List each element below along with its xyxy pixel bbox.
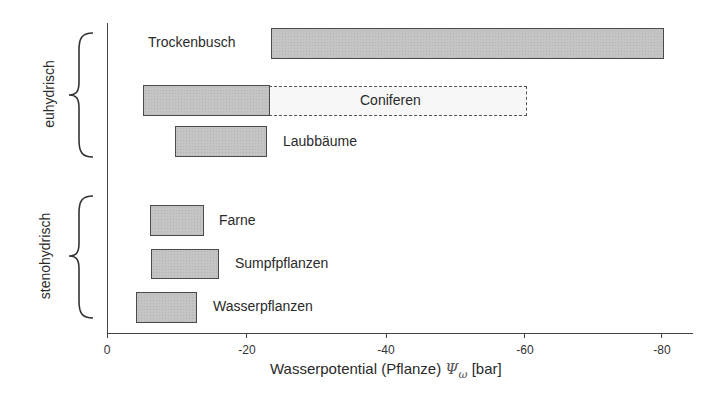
x-axis-line (107, 333, 693, 334)
x-tick-label-0: 0 (104, 343, 111, 357)
brace-euhydrisch-icon (66, 30, 96, 160)
x-tick-label-20: -20 (238, 343, 255, 357)
x-tick-60 (524, 333, 525, 338)
label-wasserpflanzen: Wasserpflanzen (213, 298, 313, 314)
label-laubbaeume: Laubbäume (283, 133, 357, 149)
x-axis-unit: [bar] (468, 360, 502, 377)
bar-trockenbusch (271, 28, 664, 59)
bar-wasserpflanzen (136, 292, 197, 323)
psi-symbol: Ψ (445, 360, 458, 378)
x-tick-label-80: -80 (653, 343, 670, 357)
brace-stenohydrisch-icon (66, 193, 96, 321)
x-tick-40 (386, 333, 387, 338)
x-tick-label-60: -60 (516, 343, 533, 357)
group-label-stenohydrisch: stenohydrisch (37, 206, 53, 306)
y-axis-line (107, 23, 108, 334)
x-axis-label: Wasserpotential (Pflanze) Ψω [bar] (270, 360, 502, 381)
bar-coniferen (143, 85, 270, 116)
omega-subscript: ω (459, 368, 468, 381)
label-farne: Farne (219, 212, 256, 228)
x-axis-label-text: Wasserpotential (Pflanze) (270, 360, 445, 377)
bar-sumpfpflanzen (151, 249, 219, 279)
x-tick-0 (107, 333, 108, 338)
label-coniferen: Coniferen (360, 92, 421, 108)
group-label-euhydrisch: euhydrisch (41, 54, 57, 134)
label-trockenbusch: Trockenbusch (148, 34, 235, 50)
bar-farne (150, 205, 204, 236)
bar-laubbaeume (175, 126, 267, 157)
label-sumpfpflanzen: Sumpfpflanzen (235, 255, 328, 271)
x-tick-20 (246, 333, 247, 338)
x-tick-label-40: -40 (377, 343, 394, 357)
x-tick-80 (661, 333, 662, 338)
